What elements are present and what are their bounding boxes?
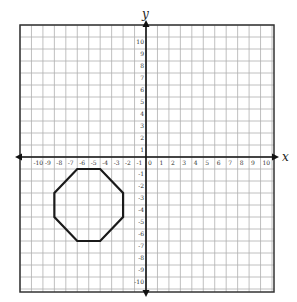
x-axis-label: x	[282, 150, 289, 164]
svg-text:-1: -1	[137, 159, 143, 166]
svg-text:-5: -5	[91, 159, 97, 166]
svg-text:2: 2	[140, 134, 144, 141]
svg-text:-6: -6	[79, 159, 85, 166]
svg-text:1: 1	[140, 146, 144, 153]
svg-text:-1: -1	[138, 170, 144, 177]
svg-text:-8: -8	[56, 159, 62, 166]
svg-text:0: 0	[148, 159, 152, 166]
svg-text:5: 5	[140, 98, 144, 105]
svg-text:-10: -10	[134, 278, 144, 285]
svg-text:7: 7	[140, 74, 144, 81]
svg-text:6: 6	[140, 86, 144, 93]
svg-text:5: 5	[205, 159, 209, 166]
svg-text:10: 10	[136, 38, 144, 45]
svg-text:-6: -6	[138, 230, 144, 237]
svg-text:-3: -3	[114, 159, 120, 166]
svg-text:9: 9	[140, 50, 144, 57]
svg-text:-3: -3	[138, 194, 144, 201]
svg-text:-4: -4	[138, 206, 144, 213]
svg-text:3: 3	[140, 122, 144, 129]
svg-text:4: 4	[140, 110, 144, 117]
tick-labels: -10-9-8-7-6-5-4-3-2-10123456789101098765…	[33, 38, 270, 285]
svg-text:2: 2	[171, 159, 175, 166]
svg-text:-10: -10	[33, 159, 43, 166]
svg-text:8: 8	[140, 62, 144, 69]
svg-text:-9: -9	[138, 266, 144, 273]
y-axis-label: y	[141, 7, 149, 21]
svg-text:-7: -7	[138, 242, 144, 249]
svg-text:6: 6	[217, 159, 221, 166]
svg-text:1: 1	[159, 159, 163, 166]
svg-text:3: 3	[182, 159, 186, 166]
svg-text:8: 8	[240, 159, 244, 166]
svg-text:4: 4	[194, 159, 198, 166]
svg-text:-7: -7	[68, 159, 74, 166]
svg-text:9: 9	[251, 159, 255, 166]
svg-text:-2: -2	[138, 182, 144, 189]
svg-text:-9: -9	[45, 159, 51, 166]
svg-text:-8: -8	[138, 254, 144, 261]
svg-text:10: 10	[263, 159, 271, 166]
svg-text:7: 7	[228, 159, 232, 166]
svg-text:-2: -2	[125, 159, 131, 166]
svg-text:-4: -4	[102, 159, 108, 166]
svg-text:-5: -5	[138, 218, 144, 225]
coordinate-plane: -10-9-8-7-6-5-4-3-2-10123456789101098765…	[0, 0, 297, 302]
